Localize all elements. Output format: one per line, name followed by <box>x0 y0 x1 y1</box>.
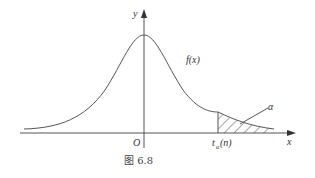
quantile-label: t α (n) <box>212 137 232 150</box>
area-alpha-label: α <box>268 101 274 112</box>
svg-text:t: t <box>212 137 215 148</box>
y-axis-label: y <box>132 8 138 19</box>
svg-text:(n): (n) <box>220 137 232 149</box>
density-curve <box>24 35 274 129</box>
origin-label: O <box>133 137 140 148</box>
figure-caption: 图 6.8 <box>124 155 153 166</box>
x-axis-label: x <box>286 136 292 147</box>
y-axis <box>141 9 147 148</box>
curve-label: f(x) <box>186 54 201 66</box>
y-axis-arrow-icon <box>141 9 147 18</box>
t-distribution-diagram: y x O f(x) α t α (n) 图 6.8 <box>0 0 315 178</box>
alpha-leader-line <box>240 108 268 124</box>
